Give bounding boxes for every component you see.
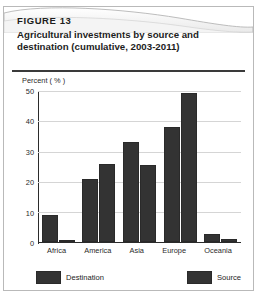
figure-number: FIGURE 13 — [17, 15, 240, 26]
bar-group-africa — [42, 91, 75, 242]
bar-groups — [38, 91, 241, 242]
x-axis-baseline — [38, 242, 241, 243]
figure-caption-line-2: destination (cumulative, 2003-2011) — [17, 41, 240, 53]
legend-label-source: Source — [217, 273, 241, 282]
figure-title-block: FIGURE 13 Agricultural investments by so… — [4, 15, 253, 54]
title-divider — [12, 70, 245, 72]
x-axis-labels: Africa America Asia Europe Oceania — [38, 246, 241, 255]
bar-america-destination[interactable] — [82, 179, 98, 242]
legend-label-destination: Destination — [66, 273, 104, 282]
bar-europe-destination[interactable] — [164, 127, 180, 242]
figure-card: FIGURE 13 Agricultural investments by so… — [3, 6, 254, 291]
y-tick-label: 0 — [30, 239, 34, 248]
y-axis-ticks: 50 40 30 20 10 0 — [12, 91, 34, 243]
bar-africa-destination[interactable] — [42, 215, 58, 242]
x-label-africa: Africa — [47, 246, 66, 255]
chart-plot: Percent ( % ) 50 40 30 20 10 0 — [12, 74, 245, 264]
bar-america-source[interactable] — [99, 164, 115, 243]
bar-asia-destination[interactable] — [123, 142, 139, 242]
legend-item-destination[interactable]: Destination — [36, 271, 104, 284]
figure-caption-line-1: Agricultural investments by source and — [17, 29, 240, 41]
bar-asia-source[interactable] — [140, 165, 156, 242]
chart-legend: Destination Source — [12, 269, 245, 285]
y-tick-label: 40 — [26, 117, 34, 126]
plot-area — [38, 91, 241, 243]
y-tick-label: 30 — [26, 147, 34, 156]
bar-group-oceania — [204, 91, 237, 242]
y-tick-label: 20 — [26, 178, 34, 187]
x-label-oceania: Oceania — [204, 246, 232, 255]
y-tick-label: 50 — [26, 87, 34, 96]
legend-swatch-destination — [36, 271, 61, 284]
y-axis-title: Percent ( % ) — [22, 76, 65, 85]
bar-group-asia — [123, 91, 156, 242]
x-label-asia: Asia — [130, 246, 144, 255]
legend-item-source[interactable]: Source — [187, 271, 241, 284]
x-label-america: America — [84, 246, 111, 255]
bar-group-europe — [164, 91, 197, 242]
bar-europe-source[interactable] — [181, 93, 197, 243]
legend-swatch-source — [187, 271, 212, 284]
bar-oceania-destination[interactable] — [204, 234, 220, 242]
bar-group-america — [82, 91, 115, 242]
bar-oceania-source[interactable] — [221, 239, 237, 242]
bar-africa-source[interactable] — [59, 240, 75, 243]
y-tick-label: 10 — [26, 208, 34, 217]
x-label-europe: Europe — [162, 246, 186, 255]
